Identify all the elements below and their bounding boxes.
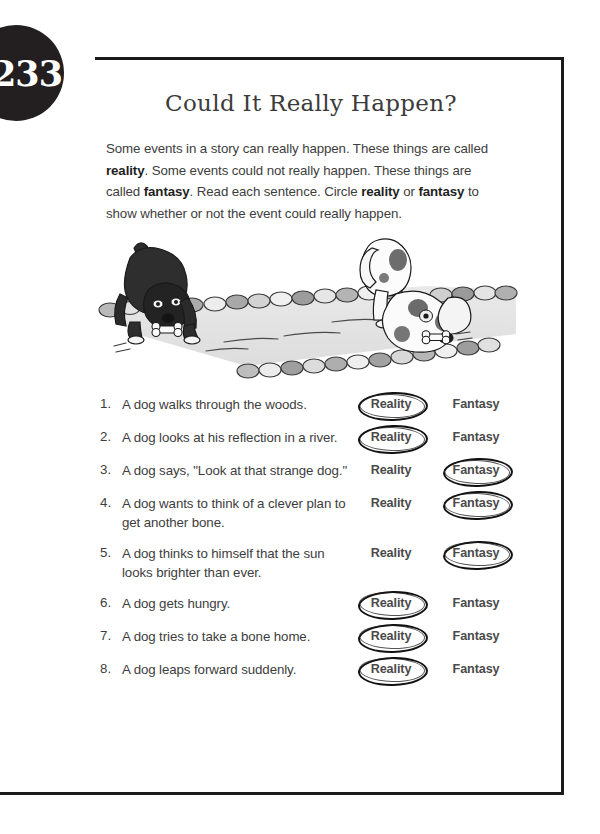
choice-reality[interactable]: Reality (354, 661, 428, 678)
question-number: 1. (100, 395, 122, 411)
header-rule (95, 57, 564, 60)
instructions-text-1: Some events in a story can really happen… (106, 141, 488, 156)
choice-fantasy-label: Fantasy (453, 496, 500, 510)
choice-reality[interactable]: Reality (354, 495, 428, 512)
question-text: A dog tries to take a bone home. (122, 627, 354, 647)
question-row: 2. A dog looks at his reflection in a ri… (100, 428, 526, 450)
question-number: 8. (100, 660, 122, 676)
question-row: 5. A dog thinks to himself that the sun … (100, 544, 526, 583)
choice-reality[interactable]: Reality (354, 628, 428, 645)
question-number: 6. (100, 594, 122, 610)
question-text: A dog leaps forward suddenly. (122, 660, 354, 680)
question-number: 4. (100, 494, 122, 510)
choice-fantasy[interactable]: Fantasy (436, 545, 516, 562)
page-border-right (561, 57, 564, 795)
choice-fantasy-label: Fantasy (453, 629, 500, 643)
choice-reality-label: Reality (371, 546, 412, 560)
choice-fantasy[interactable]: Fantasy (436, 429, 516, 446)
page-title: Could It Really Happen? (96, 90, 526, 116)
instructions-term-reality-2: reality (361, 184, 399, 199)
instructions-term-fantasy-1: fantasy (144, 184, 190, 199)
worksheet-page: 233 Could It Really Happen? Some events … (0, 0, 600, 834)
choice-fantasy-label: Fantasy (453, 463, 500, 477)
question-row: 4. A dog wants to think of a clever plan… (100, 494, 526, 533)
question-text: A dog says, "Look at that strange dog." (122, 461, 354, 481)
question-row: 7. A dog tries to take a bone home. Real… (100, 627, 526, 649)
choice-reality-label: Reality (371, 662, 412, 676)
choice-fantasy[interactable]: Fantasy (436, 462, 516, 479)
choice-reality[interactable]: Reality (354, 545, 428, 562)
dark-dog (115, 243, 200, 344)
answer-choices: Reality Fantasy (354, 594, 522, 612)
page-number-text: 233 (0, 53, 62, 94)
choice-reality-label: Reality (371, 430, 412, 444)
instructions-text-3: . Read each sentence. Circle (190, 184, 362, 199)
question-text: A dog gets hungry. (122, 594, 354, 614)
choice-fantasy[interactable]: Fantasy (436, 396, 516, 413)
answer-choices: Reality Fantasy (354, 544, 522, 562)
choice-reality-label: Reality (371, 496, 412, 510)
question-text: A dog thinks to himself that the sun loo… (122, 544, 354, 583)
choice-reality-label: Reality (371, 629, 412, 643)
choice-fantasy-label: Fantasy (453, 596, 500, 610)
question-text: A dog looks at his reflection in a river… (122, 428, 354, 448)
choice-reality[interactable]: Reality (354, 396, 428, 413)
answer-choices: Reality Fantasy (354, 395, 522, 413)
question-number: 7. (100, 627, 122, 643)
choice-reality[interactable]: Reality (354, 429, 428, 446)
worksheet-content: Could It Really Happen? Some events in a… (96, 70, 526, 693)
question-number: 2. (100, 428, 122, 444)
question-text: A dog walks through the woods. (122, 395, 354, 415)
question-row: 3. A dog says, "Look at that strange dog… (100, 461, 526, 483)
choice-fantasy[interactable]: Fantasy (436, 595, 516, 612)
choice-fantasy[interactable]: Fantasy (436, 628, 516, 645)
choice-reality[interactable]: Reality (354, 595, 428, 612)
question-number: 3. (100, 461, 122, 477)
page-number-badge: 233 (0, 25, 64, 121)
question-row: 6. A dog gets hungry. Reality Fantasy (100, 594, 526, 616)
choice-reality-label: Reality (371, 596, 412, 610)
answer-choices: Reality Fantasy (354, 627, 522, 645)
answer-choices: Reality Fantasy (354, 494, 522, 512)
answer-choices: Reality Fantasy (354, 428, 522, 446)
instructions-term-reality-1: reality (106, 163, 144, 178)
instructions-text-4: or (400, 184, 419, 199)
choice-fantasy-label: Fantasy (453, 430, 500, 444)
choice-reality-label: Reality (371, 463, 412, 477)
two-dogs-stream-illustration (96, 238, 526, 383)
choice-fantasy[interactable]: Fantasy (436, 495, 516, 512)
illustration-svg (96, 238, 526, 383)
questions-list: 1. A dog walks through the woods. Realit… (100, 395, 526, 682)
choice-fantasy-label: Fantasy (453, 397, 500, 411)
choice-fantasy[interactable]: Fantasy (436, 661, 516, 678)
question-number: 5. (100, 544, 122, 560)
instructions-paragraph: Some events in a story can really happen… (106, 138, 492, 224)
choice-fantasy-label: Fantasy (453, 662, 500, 676)
choice-reality[interactable]: Reality (354, 462, 428, 479)
choice-fantasy-label: Fantasy (453, 546, 500, 560)
question-text: A dog wants to think of a clever plan to… (122, 494, 354, 533)
question-row: 1. A dog walks through the woods. Realit… (100, 395, 526, 417)
choice-reality-label: Reality (371, 397, 412, 411)
answer-choices: Reality Fantasy (354, 660, 522, 678)
question-row: 8. A dog leaps forward suddenly. Reality… (100, 660, 526, 682)
instructions-term-fantasy-2: fantasy (418, 184, 464, 199)
page-border-bottom (0, 792, 564, 795)
answer-choices: Reality Fantasy (354, 461, 522, 479)
